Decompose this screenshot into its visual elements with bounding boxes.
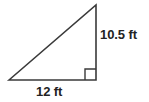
vertical-leg-length-label: 10.5 ft [100,27,137,42]
triangle-outline [9,5,96,80]
triangle-drawing [0,0,149,102]
horizontal-leg-length-label: 12 ft [36,84,62,99]
right-triangle-figure: 10.5 ft 12 ft [0,0,149,102]
right-angle-square-icon [85,69,96,80]
